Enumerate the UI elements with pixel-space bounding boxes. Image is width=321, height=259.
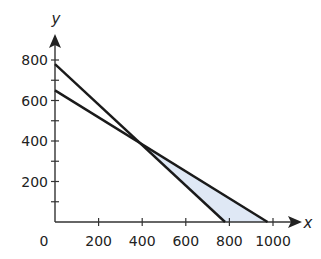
y-axis-label: y [51, 10, 62, 28]
y-tick-label: 400 [21, 133, 48, 149]
x-tick-label: 400 [129, 233, 156, 249]
y-tick-label: 200 [21, 174, 48, 190]
y-tick-label: 800 [21, 52, 48, 68]
x-tick-label: 600 [172, 233, 199, 249]
x-tick-label: 0 [40, 233, 49, 249]
y-tick-label: 600 [21, 93, 48, 109]
x-tick-label: 800 [216, 233, 243, 249]
x-tick-label: 1000 [255, 233, 291, 249]
series-line-2 [55, 90, 268, 222]
chart: 02004006008001000200400600800xy [0, 0, 321, 259]
x-axis-label: x [303, 214, 313, 232]
x-tick-label: 200 [85, 233, 112, 249]
